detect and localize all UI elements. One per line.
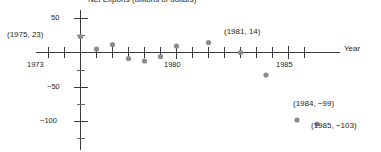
data-point [238, 50, 243, 55]
data-point [294, 117, 299, 122]
y-tick-label-neg50: −50 [47, 83, 60, 91]
data-point [94, 46, 99, 51]
x-axis-title: Year [344, 45, 360, 53]
data-point [78, 34, 83, 39]
data-point [263, 72, 268, 77]
annotation-1975: (1975, 23) [7, 31, 43, 39]
x-tick-label-1985: 1985 [276, 61, 293, 69]
data-point [142, 58, 147, 63]
data-point [206, 40, 211, 45]
y-tick-label-50: 50 [51, 14, 59, 22]
data-point [126, 56, 131, 61]
y-tick-label-neg100: −100 [40, 117, 57, 125]
annotation-1985: (1985, −103) [311, 122, 357, 130]
x-tick-label-1980: 1980 [164, 61, 181, 69]
x-tick-label-1973: 1973 [27, 61, 44, 69]
data-points [78, 34, 320, 127]
annotation-1984: (1984, −99) [293, 100, 334, 108]
data-point [158, 54, 163, 59]
annotation-1981: (1981, 14) [224, 28, 260, 36]
data-point [174, 43, 179, 48]
data-point [110, 42, 115, 47]
net-exports-scatter-chart: Net Exports (billions of dollars) [0, 0, 381, 152]
